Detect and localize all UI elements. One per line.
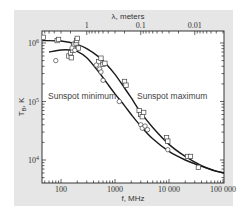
square-marker [140,114,144,118]
top-tick-label: 0.1 [136,21,146,30]
circle-marker [117,99,121,103]
top-tick-label: 0.01 [188,21,202,30]
square-marker [124,83,128,87]
y-tick-label: 104 [28,155,39,165]
circle-marker [54,58,58,62]
annotation-sunspot-maximum: Sunspot maximum [137,91,207,101]
x-tick-label: 100 000 [210,185,236,194]
circle-marker [94,63,98,67]
top-tick-label: 1 [85,21,89,30]
annotation-sunspot-minimum: Sunspot minimum [48,91,116,101]
y-axis-title: TB, K [17,97,27,116]
circle-marker [166,147,170,151]
circle-marker [99,70,103,74]
circle-marker [145,127,149,131]
square-marker [56,37,60,41]
square-marker [69,56,73,60]
x-axis-title: f, MHz [121,194,144,203]
top-axis-title: λ, meters [112,12,145,21]
circle-marker [101,78,105,82]
x-tick-label: 100 [55,185,67,194]
brightness-temperature-chart: 100100010 000100 00010.10.01106105104 λ,… [0,0,248,222]
y-tick-label: 105 [28,97,39,107]
y-tick-label: 106 [28,38,39,48]
svg-text:TB, K: TB, K [17,97,27,116]
square-marker [196,165,200,169]
square-marker [166,139,170,143]
square-marker [103,61,107,65]
circle-marker [73,48,77,52]
square-marker [188,154,192,158]
x-tick-label: 10 000 [158,185,180,194]
x-tick-label: 1000 [107,185,123,194]
square-marker [141,110,145,114]
square-marker [75,36,79,40]
square-marker [99,56,103,60]
